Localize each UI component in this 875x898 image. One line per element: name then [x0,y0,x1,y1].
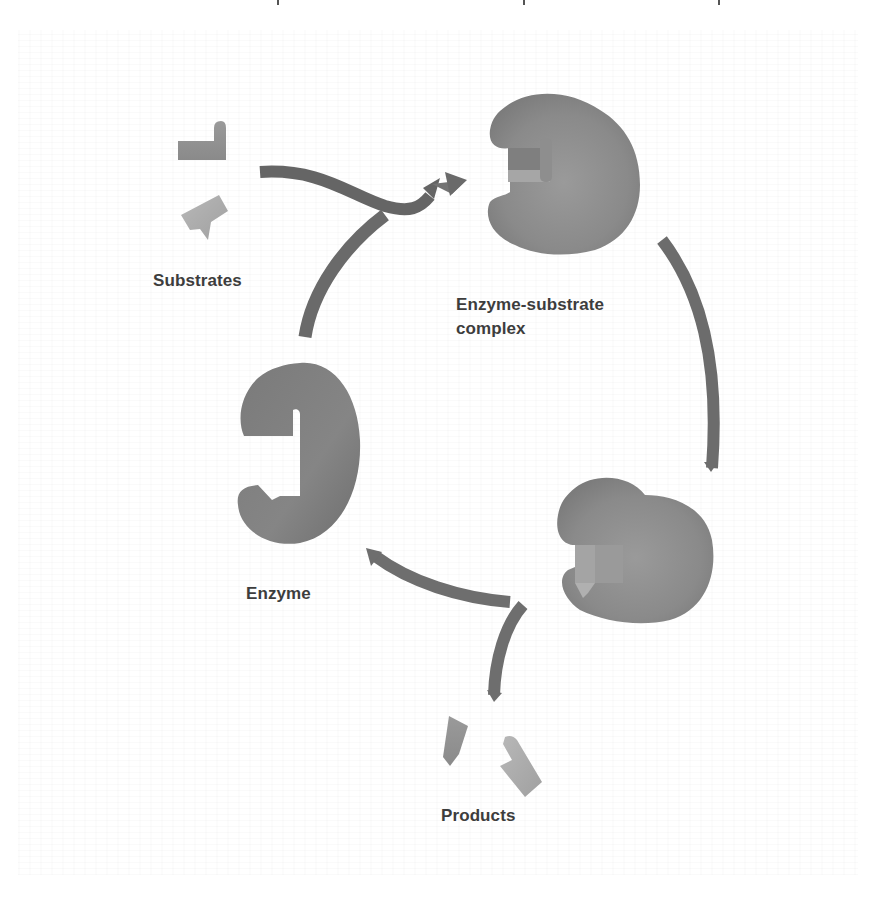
enzyme-product-complex-shape [557,478,713,623]
label-complex-line2: complex [456,317,526,341]
enzyme-cycle-diagram [0,0,875,898]
enzyme-substrate-complex-shape [488,94,640,255]
arrow-complex-to-product-bound [662,240,718,472]
arrow-product-bound-to-products [487,605,523,702]
arrow-product-bound-to-enzyme [366,548,510,602]
product-a-shape [443,716,468,766]
arrow-substrates-to-complex [260,172,467,210]
substrate-b-shape [181,195,228,240]
product-b-shape [500,736,542,797]
substrate-a-shape [178,121,226,160]
enzyme-shape [238,363,360,544]
label-substrates: Substrates [153,269,242,293]
arrow-enzyme-to-complex [305,215,385,337]
label-complex-line1: Enzyme-substrate [456,293,604,317]
label-enzyme: Enzyme [246,582,311,606]
label-products: Products [441,804,515,828]
